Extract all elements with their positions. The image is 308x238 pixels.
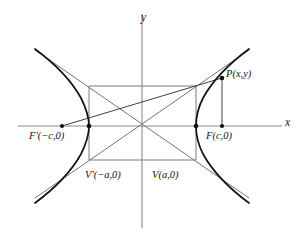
figure-canvas <box>0 0 308 238</box>
vertex-right-marker <box>194 124 199 129</box>
axes-group <box>18 14 282 228</box>
vertex-left-label: V'(−a,0) <box>85 170 121 181</box>
point-p-marker <box>220 76 225 81</box>
point-p-label: P(x,y) <box>226 69 251 80</box>
x-axis-label: x <box>285 117 290 129</box>
focus-left-label: F'(−c,0) <box>29 131 64 142</box>
focus-left-marker <box>60 124 64 128</box>
vertex-left-marker <box>87 124 92 129</box>
y-axis-label: y <box>141 12 146 24</box>
focus-right-label: F(c,0) <box>206 131 232 142</box>
hyperbola-figure: y x F'(−c,0) F(c,0) V'(−a,0) V(a,0) P(x,… <box>0 0 308 238</box>
focus-right-marker <box>220 124 224 128</box>
vertex-right-label: V(a,0) <box>152 170 179 181</box>
